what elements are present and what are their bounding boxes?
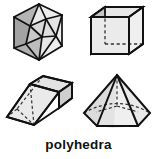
shape-hexagonal-pyramid [80,72,154,134]
shape-icosahedron [4,2,74,68]
shape-cube [82,4,150,68]
shape-rectangular-prism [4,72,76,134]
hexagonal-pyramid-drawing [80,72,154,134]
cube-drawing [82,4,150,68]
rectangular-prism-drawing [4,72,76,134]
figure-caption: polyhedra [0,136,157,154]
icosahedron-drawing [4,2,74,68]
polyhedra-figure: polyhedra [0,0,157,159]
